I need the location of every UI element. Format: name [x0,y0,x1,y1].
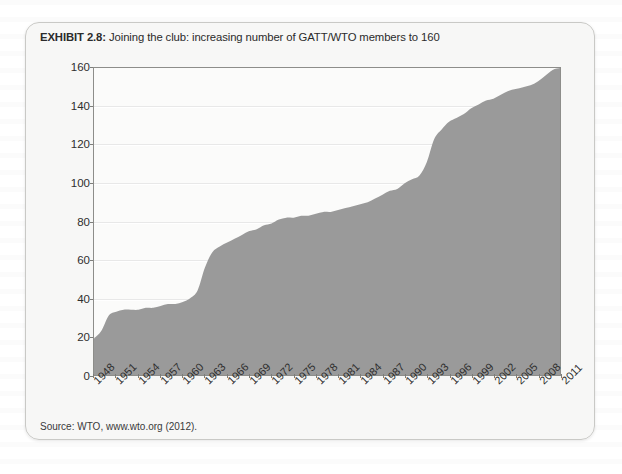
y-axis-ticks [26,67,96,376]
exhibit-card: EXHIBIT 2.8: Joining the club: increasin… [25,22,595,440]
x-tick-label: 2011 [559,361,584,386]
exhibit-label: EXHIBIT 2.8: [40,31,106,43]
source-note: Source: WTO, www.wto.org (2012). [40,421,197,432]
plot-box [93,67,561,376]
exhibit-title: EXHIBIT 2.8: Joining the club: increasin… [40,31,580,43]
area-path [94,68,560,375]
chart-plot-area [93,67,561,376]
exhibit-title-text: Joining the club: increasing number of G… [109,31,440,43]
area-series-gatt-wto-members [94,68,560,375]
